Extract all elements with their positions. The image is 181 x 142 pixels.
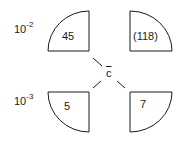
quadrant-top-right-value: (118) [133, 31, 158, 42]
quadrant-bottom-left-value: 5 [64, 101, 70, 112]
quadrant-top-left-value: 45 [62, 31, 74, 42]
connector-line-bottom-right [117, 81, 125, 88]
row-label-top: 10-2 [14, 22, 33, 35]
connector-line-top-left [93, 58, 102, 66]
row-label-top-exponent: -2 [26, 20, 33, 29]
row-label-bottom: 10-3 [14, 94, 33, 107]
quadrant-bottom-right-shape [130, 92, 172, 132]
quadrant-bottom-left-shape [48, 92, 89, 132]
connector-line-bottom-left [93, 81, 101, 88]
row-label-bottom-exponent: -3 [26, 92, 33, 101]
row-label-top-base: 10 [14, 23, 26, 35]
quadrant-bottom-right-value: 7 [140, 99, 146, 110]
row-label-bottom-base: 10 [14, 95, 26, 107]
center-label-c-bar: c [106, 68, 112, 79]
